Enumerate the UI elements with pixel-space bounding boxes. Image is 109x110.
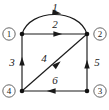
vertex-dot-1 [20,32,25,37]
node-1: 1 [3,28,15,40]
edge-label-6: 6 [52,74,58,86]
edge-label-4: 4 [41,52,47,64]
node-2: 2 [94,28,106,40]
edge-6-arrowhead [47,88,56,93]
edge-3-arrowhead [19,57,24,66]
node-label-2: 2 [98,29,103,39]
node-label-4: 4 [7,86,12,96]
vertex-dot-2 [85,32,90,37]
edge-4-arrowhead [52,59,62,69]
vertex-dot-4 [20,89,25,94]
node-label-3: 3 [98,86,103,96]
edge-label-3: 3 [8,56,15,68]
edge-2-arrowhead [53,31,62,36]
edge-5-arrowhead [84,60,89,69]
directed-graph-figure: 123456 1234 [0,0,109,110]
edge-label-5: 5 [94,56,100,68]
graph-canvas: 123456 1234 [0,0,109,110]
node-4: 4 [3,85,15,97]
node-3: 3 [94,85,106,97]
edge-label-1: 1 [52,1,58,13]
edge-label-2: 2 [52,18,58,30]
vertex-dot-3 [85,89,90,94]
node-label-1: 1 [7,29,12,39]
